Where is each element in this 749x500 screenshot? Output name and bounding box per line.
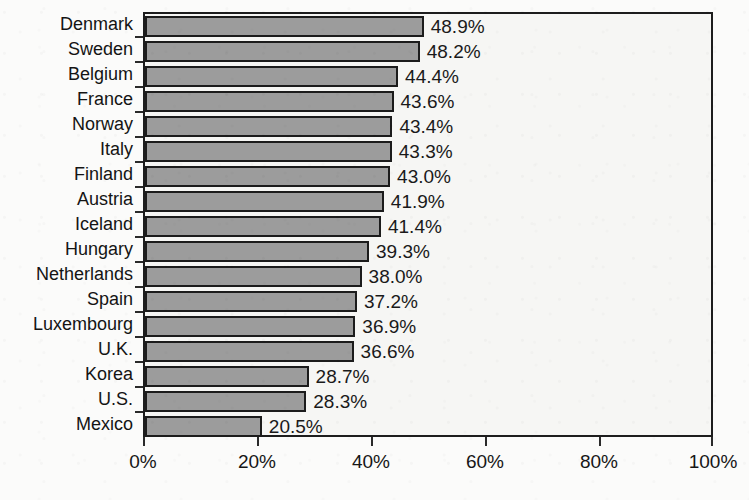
bar[interactable] (145, 316, 355, 337)
category-tick-mark (135, 336, 143, 338)
bar[interactable] (145, 66, 398, 87)
value-tick-label: 60% (466, 451, 504, 473)
category-tick-mark (135, 36, 143, 38)
category-label: Netherlands (36, 262, 133, 287)
bar-value-label: 39.3% (369, 240, 430, 263)
bar-value-label: 36.6% (354, 340, 415, 363)
bar-value-label: 41.9% (384, 190, 445, 213)
category-label: France (77, 87, 133, 112)
bar-value-label: 38.0% (362, 265, 423, 288)
category-label: Norway (72, 112, 133, 137)
value-tick-label: 0% (129, 451, 156, 473)
bar[interactable] (145, 166, 390, 187)
bar-row: 28.7% (145, 364, 711, 389)
value-tick-mark (599, 437, 601, 446)
horizontal-bar-chart: DenmarkSwedenBelgiumFranceNorwayItalyFin… (0, 0, 749, 500)
bar-value-label: 20.5% (262, 415, 323, 438)
value-tick-mark (143, 437, 145, 446)
category-tick-mark (135, 411, 143, 413)
bar[interactable] (145, 141, 392, 162)
value-tick-mark (485, 437, 487, 446)
bar[interactable] (145, 16, 424, 37)
value-tick-mark (711, 437, 713, 446)
bar-value-label: 36.9% (355, 315, 416, 338)
bar-value-label: 44.4% (398, 65, 459, 88)
bar-row: 48.2% (145, 39, 711, 64)
bar[interactable] (145, 416, 262, 437)
value-axis: 0%20%40%60%80%100% (143, 437, 713, 497)
category-label: Hungary (65, 237, 133, 262)
bar[interactable] (145, 191, 384, 212)
bar-value-label: 43.4% (392, 115, 453, 138)
bar[interactable] (145, 266, 362, 287)
category-label: Austria (77, 187, 133, 212)
bar-row: 43.3% (145, 139, 711, 164)
category-label: Italy (100, 137, 133, 162)
value-tick-mark (257, 437, 259, 446)
category-tick-mark (135, 61, 143, 63)
category-tick-mark (135, 211, 143, 213)
bar-value-label: 43.0% (390, 165, 451, 188)
bar[interactable] (145, 291, 357, 312)
bar-value-label: 37.2% (357, 290, 418, 313)
category-tick-mark (135, 136, 143, 138)
category-tick-mark (135, 261, 143, 263)
bar-row: 43.6% (145, 89, 711, 114)
bar-value-label: 48.9% (424, 15, 485, 38)
category-label: Spain (87, 287, 133, 312)
category-tick-mark (135, 236, 143, 238)
bar-row: 43.0% (145, 164, 711, 189)
bar[interactable] (145, 241, 369, 262)
value-tick-mark (371, 437, 373, 446)
bar-row: 38.0% (145, 264, 711, 289)
plot-area: 48.9%48.2%44.4%43.6%43.4%43.3%43.0%41.9%… (143, 12, 713, 437)
bar-row: 41.4% (145, 214, 711, 239)
value-tick-label: 80% (580, 451, 618, 473)
category-tick-mark (135, 361, 143, 363)
bar-value-label: 28.3% (306, 390, 367, 413)
bar-row: 37.2% (145, 289, 711, 314)
bar-row: 20.5% (145, 414, 711, 439)
category-label: U.K. (98, 337, 133, 362)
category-label: Sweden (68, 37, 133, 62)
value-tick-label: 100% (689, 451, 738, 473)
bar-value-label: 43.6% (394, 90, 455, 113)
category-tick-mark (135, 86, 143, 88)
category-tick-mark (135, 311, 143, 313)
bar-row: 41.9% (145, 189, 711, 214)
category-tick-mark (135, 286, 143, 288)
bar[interactable] (145, 341, 354, 362)
bar-row: 36.9% (145, 314, 711, 339)
bar-row: 48.9% (145, 14, 711, 39)
bar-value-label: 28.7% (309, 365, 370, 388)
category-label: Luxembourg (33, 312, 133, 337)
bar[interactable] (145, 91, 394, 112)
bar[interactable] (145, 366, 309, 387)
bar[interactable] (145, 41, 420, 62)
value-tick-label: 40% (352, 451, 390, 473)
category-label: Denmark (60, 12, 133, 37)
category-tick-mark (135, 186, 143, 188)
bar-value-label: 43.3% (392, 140, 453, 163)
category-label: U.S. (98, 387, 133, 412)
category-tick-mark (135, 111, 143, 113)
category-label: Korea (85, 362, 133, 387)
bar[interactable] (145, 216, 381, 237)
category-label: Mexico (76, 412, 133, 437)
bar-row: 43.4% (145, 114, 711, 139)
category-tick-mark (135, 161, 143, 163)
category-tick-mark (135, 386, 143, 388)
value-tick-label: 20% (238, 451, 276, 473)
bar-value-label: 41.4% (381, 215, 442, 238)
category-label: Belgium (68, 62, 133, 87)
category-axis-labels: DenmarkSwedenBelgiumFranceNorwayItalyFin… (0, 12, 143, 437)
bar[interactable] (145, 116, 392, 137)
bar-value-label: 48.2% (420, 40, 481, 63)
bar[interactable] (145, 391, 306, 412)
bar-row: 39.3% (145, 239, 711, 264)
category-label: Finland (74, 162, 133, 187)
bar-row: 44.4% (145, 64, 711, 89)
bar-row: 28.3% (145, 389, 711, 414)
bar-row: 36.6% (145, 339, 711, 364)
category-label: Iceland (75, 212, 133, 237)
